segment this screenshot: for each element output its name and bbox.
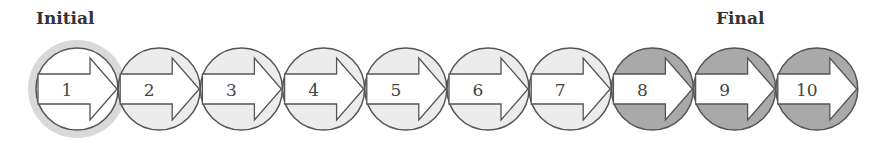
step-number: 3 — [226, 80, 237, 100]
step-4: 4 — [283, 48, 365, 130]
step-sequence-diagram: 12345678910 — [0, 0, 890, 146]
step-number: 8 — [637, 80, 648, 100]
step-9: 9 — [694, 48, 776, 130]
step-number: 5 — [390, 80, 401, 100]
step-10: 10 — [776, 48, 858, 130]
step-number: 10 — [796, 80, 818, 100]
step-2: 2 — [118, 48, 200, 130]
step-3: 3 — [200, 48, 282, 130]
step-8: 8 — [611, 48, 693, 130]
step-number: 7 — [555, 80, 566, 100]
step-1: 1 — [28, 40, 126, 138]
step-5: 5 — [365, 48, 447, 130]
step-number: 9 — [719, 80, 730, 100]
step-number: 4 — [308, 80, 319, 100]
step-number: 2 — [144, 80, 155, 100]
step-number: 6 — [473, 80, 484, 100]
step-7: 7 — [529, 48, 611, 130]
step-6: 6 — [447, 48, 529, 130]
step-number: 1 — [62, 80, 73, 100]
